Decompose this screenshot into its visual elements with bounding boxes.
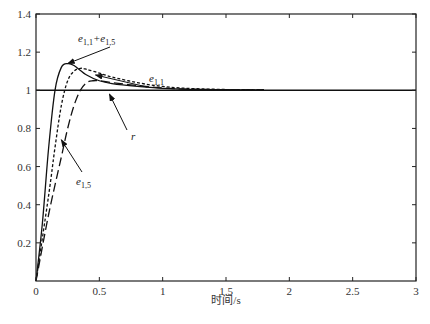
y-tick-label: 1 (26, 84, 32, 96)
y-tick-label: 0.2 (17, 237, 31, 249)
annotation-label: r (131, 130, 136, 142)
annotation-arrow (109, 94, 127, 130)
annotation-label: e1,1+e1,5 (78, 32, 115, 47)
curves (36, 63, 416, 281)
annotation-arrow (61, 140, 82, 172)
series-e-1-1- (36, 68, 264, 281)
x-tick-label: 0.5 (92, 285, 106, 297)
y-tick-label: 0.8 (17, 122, 31, 134)
axes: 00.511.522.530.20.40.60.811.21.4 (17, 8, 419, 297)
y-tick-label: 0.6 (17, 161, 31, 173)
annotation-label: e1,1 (149, 72, 164, 87)
series-e-1-5- (36, 81, 264, 281)
y-tick-label: 1.4 (17, 8, 31, 20)
y-tick-label: 0.4 (17, 199, 31, 211)
x-tick-label: 2.5 (346, 285, 360, 297)
x-tick-label: 1 (160, 285, 166, 297)
annotation-arrow (68, 47, 110, 64)
x-tick-label: 3 (413, 285, 419, 297)
series-e-1-1-e-1-5- (36, 63, 264, 281)
annotations: e1,1+e1,5e1,1re1,5 (61, 32, 164, 190)
x-tick-label: 0 (33, 285, 39, 297)
x-axis-label: 时间/s (211, 294, 240, 306)
annotation-label: e1,5 (76, 175, 91, 190)
line-chart: e1,1+e1,5e1,1re1,5 00.511.522.530.20.40.… (0, 0, 430, 324)
x-tick-label: 2 (287, 285, 293, 297)
y-tick-label: 1.2 (17, 46, 31, 58)
